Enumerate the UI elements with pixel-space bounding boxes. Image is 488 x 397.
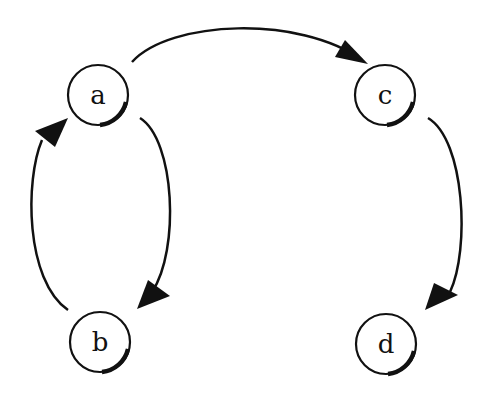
node-a-label: a: [90, 80, 106, 110]
edge-a-to-b: [140, 118, 170, 292]
node-d[interactable]: d: [356, 314, 416, 374]
edge-b-to-a: [31, 140, 68, 310]
graph-canvas: a c b d: [0, 0, 488, 397]
node-c[interactable]: c: [355, 65, 415, 125]
node-a[interactable]: a: [68, 65, 128, 125]
edge-c-to-d: [428, 118, 462, 292]
edge-a-to-c: [132, 28, 362, 62]
node-d-label: d: [378, 329, 395, 359]
node-b[interactable]: b: [70, 312, 130, 372]
arrowhead-a-to-c: [335, 40, 368, 64]
arrowhead-a-to-b: [137, 280, 170, 309]
node-c-label: c: [378, 80, 393, 110]
node-b-label: b: [92, 327, 109, 357]
